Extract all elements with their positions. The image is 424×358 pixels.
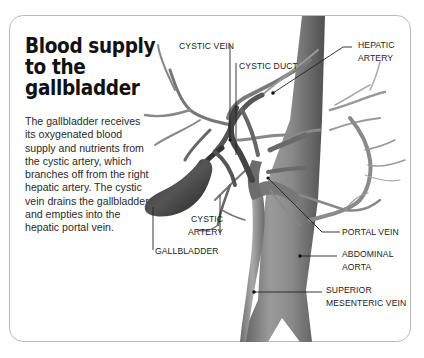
gallbladder [145,159,213,217]
label-hepatic-artery-line1: HEPATIC [358,40,395,51]
label-cystic-artery-line1: CYSTIC [191,214,223,225]
label-cystic-duct: CYSTIC DUCT [239,61,298,72]
label-portal-vein: PORTAL VEIN [342,227,399,238]
label-gallbladder: GALLBLADDER [155,246,219,257]
label-hepatic-artery-line2: ARTERY [358,53,393,64]
label-cystic-artery-line2: ARTERY [188,227,223,238]
label-sup-mesenteric-vein-line2: MESENTERIC VEIN [326,298,406,309]
label-sup-mesenteric-vein-line1: SUPERIOR [326,285,372,296]
label-abdominal-aorta-line1: ABDOMINAL [342,249,394,260]
label-abdominal-aorta-line2: AORTA [342,262,371,273]
label-cystic-vein: CYSTIC VEIN [179,41,234,52]
